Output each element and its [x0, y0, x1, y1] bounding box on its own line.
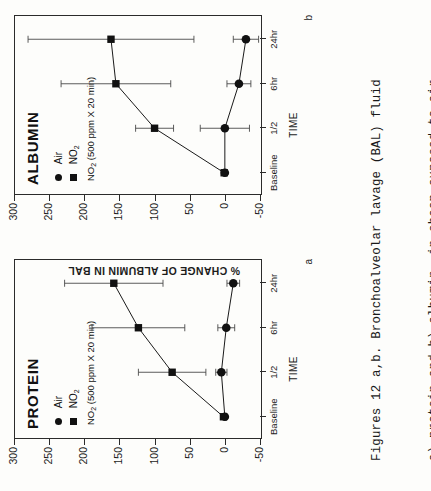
y-axis-tick: [84, 195, 85, 201]
data-point-circle: [242, 35, 251, 44]
x-axis-tick: [260, 38, 266, 39]
data-point-circle: [229, 279, 238, 288]
y-axis-tick-label: 150: [112, 203, 124, 243]
data-point-square: [151, 125, 158, 132]
panel-protein: PROTEIN a Air NO2 NO2 (500 ppm X 20 min)…: [0, 253, 318, 485]
x-axis-title-albumin: TIME: [288, 9, 299, 241]
rotated-page: PROTEIN a Air NO2 NO2 (500 ppm X 20 min)…: [0, 0, 431, 491]
x-axis-tick: [260, 83, 266, 84]
caption-line: Figures 12 a,b. Bronchoalveolar lavage (…: [368, 21, 387, 461]
panel-letter-b: b: [303, 15, 314, 21]
y-axis-tick-label: 0: [218, 447, 230, 487]
x-axis-tick: [260, 371, 266, 372]
data-point-square: [112, 80, 119, 87]
y-axis-tick: [14, 195, 15, 201]
data-point-square: [110, 280, 117, 287]
figure-caption: Figures 12 a,b. Bronchoalveolar lavage (…: [330, 21, 431, 461]
y-axis-tick-label: 250: [42, 447, 54, 487]
y-axis-tick: [84, 439, 85, 445]
y-axis-tick-label: 150: [112, 447, 124, 487]
y-axis-tick: [49, 439, 50, 445]
x-axis-tick: [260, 172, 266, 173]
y-axis-tick-label: 200: [77, 447, 89, 487]
x-axis-tick: [260, 416, 266, 417]
y-axis-tick: [49, 195, 50, 201]
y-axis-tick: [155, 439, 156, 445]
series-line-air: [221, 283, 233, 417]
x-axis-tick: [260, 327, 266, 328]
data-point-circle: [222, 323, 231, 332]
data-point-square: [135, 324, 142, 331]
data-point-circle: [235, 79, 244, 88]
y-axis-tick-label: 100: [148, 203, 160, 243]
series-line-air: [225, 39, 246, 173]
data-point-square: [107, 36, 114, 43]
y-axis-tick: [225, 439, 226, 445]
y-axis-tick-label: 300: [7, 447, 19, 487]
y-axis-tick: [190, 439, 191, 445]
series-line-no2: [114, 283, 224, 417]
y-axis-tick-label: -50: [253, 203, 265, 243]
y-axis-tick-label: 50: [183, 447, 195, 487]
y-axis-tick-label: 50: [183, 203, 195, 243]
y-axis-tick: [119, 439, 120, 445]
y-axis-tick-label: 300: [7, 203, 19, 243]
data-point-square: [168, 369, 175, 376]
panel-letter-a: a: [303, 259, 314, 265]
y-axis-tick-label: -50: [253, 447, 265, 487]
y-axis-tick: [14, 439, 15, 445]
y-axis-tick: [260, 439, 261, 445]
caption-line: a) protein and b) albumin, in sheep expo…: [425, 21, 431, 461]
data-point-circle: [217, 368, 226, 377]
figures-row: PROTEIN a Air NO2 NO2 (500 ppm X 20 min)…: [0, 0, 318, 491]
y-axis-tick-label: 200: [77, 203, 89, 243]
plot-area-protein: [14, 261, 260, 439]
y-axis-tick-label: 100: [148, 447, 160, 487]
y-axis-title-albumin: % CHANGE OF ALBUMIN IN BAL: [68, 265, 240, 277]
x-axis-tick-label: 24hr: [268, 12, 279, 66]
x-axis-tick-label: 24hr: [268, 256, 279, 310]
series-line-no2: [111, 39, 224, 173]
y-axis-tick: [119, 195, 120, 201]
y-axis-tick-label: 250: [42, 203, 54, 243]
y-axis-tick-label: 0: [218, 203, 230, 243]
y-axis-tick: [225, 195, 226, 201]
plot-area-albumin: [14, 17, 260, 195]
y-axis-tick: [260, 195, 261, 201]
data-point-circle: [221, 124, 230, 133]
x-axis-tick: [260, 127, 266, 128]
figure-page: PROTEIN a Air NO2 NO2 (500 ppm X 20 min)…: [0, 0, 431, 491]
x-axis-tick: [260, 282, 266, 283]
panel-albumin: ALBUMIN b Air NO2 NO2 (500 ppm X 20 min)…: [0, 9, 318, 241]
data-point-square: [220, 413, 227, 420]
y-axis-tick: [155, 195, 156, 201]
x-axis-title-protein: TIME: [288, 253, 299, 485]
y-axis-tick: [190, 195, 191, 201]
data-point-square: [220, 169, 227, 176]
